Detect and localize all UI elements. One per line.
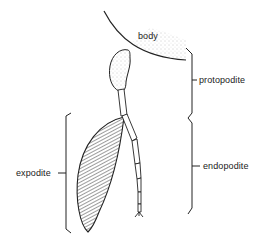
protopodite-segments [109, 50, 130, 116]
label-endopodite: endopodite [203, 161, 249, 171]
expodite-shape [77, 117, 124, 232]
label-protopodite: protopodite [199, 75, 245, 85]
label-expodite: expodite [16, 168, 51, 178]
endopodite-segments [122, 114, 143, 217]
label-body: body [138, 31, 158, 41]
appendage-diagram: body protopodite endopodite expodite [0, 0, 267, 245]
appendage-illustration [0, 0, 267, 245]
